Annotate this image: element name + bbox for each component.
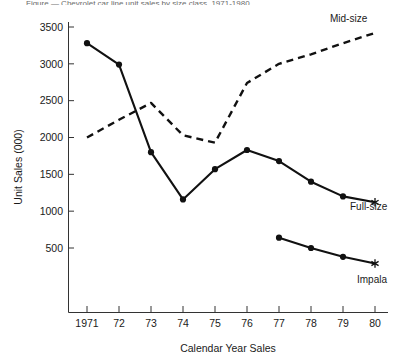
- chart-figure: Figure — Chevrolet car line unit sales b…: [0, 0, 408, 359]
- y-tick-label: 1500: [40, 168, 64, 180]
- y-axis-title: Unit Sales (000): [12, 129, 24, 204]
- data-point: [84, 40, 90, 46]
- data-point: [276, 158, 282, 164]
- x-tick-label: 77: [273, 317, 285, 329]
- x-tick-label: 79: [337, 317, 349, 329]
- data-point: [308, 179, 314, 185]
- y-tick-label: 1000: [40, 205, 64, 217]
- data-point: [116, 62, 122, 68]
- chart-canvas: 500100015002000250030003500 197172737475…: [0, 0, 408, 359]
- series-line-full-size: [87, 43, 375, 202]
- x-tick-label: 75: [209, 317, 221, 329]
- x-axis-title: Calendar Year Sales: [180, 342, 276, 354]
- x-tick-label: 76: [241, 317, 253, 329]
- series-label-impala: Impala: [357, 274, 387, 285]
- x-tick-label: 1971: [75, 317, 99, 329]
- x-tick-label: 72: [113, 317, 125, 329]
- data-point: [244, 147, 250, 153]
- data-point: [308, 245, 314, 251]
- y-tick-label: 500: [45, 242, 63, 254]
- y-tick-label: 2500: [40, 94, 64, 106]
- y-tick-label: 3500: [40, 21, 64, 33]
- x-tick-label: 80: [369, 317, 381, 329]
- data-point: [340, 254, 346, 260]
- data-point: [148, 149, 154, 155]
- series-layer: [84, 33, 379, 268]
- series-line-impala: [279, 238, 375, 264]
- x-axis-ticks: 1971727374757677787980: [75, 306, 381, 329]
- x-tick-label: 74: [177, 317, 189, 329]
- x-tick-label: 73: [145, 317, 157, 329]
- data-point: [276, 235, 282, 241]
- x-tick-label: 78: [305, 317, 317, 329]
- data-point: [212, 166, 218, 172]
- series-label-fullsize: Full-size: [350, 201, 388, 212]
- data-point: [340, 193, 346, 199]
- y-tick-label: 3000: [40, 58, 64, 70]
- series-label-midsize: Mid-size: [330, 13, 368, 24]
- series-line-mid-size: [87, 33, 375, 143]
- data-point: [180, 196, 186, 202]
- y-tick-label: 2000: [40, 131, 64, 143]
